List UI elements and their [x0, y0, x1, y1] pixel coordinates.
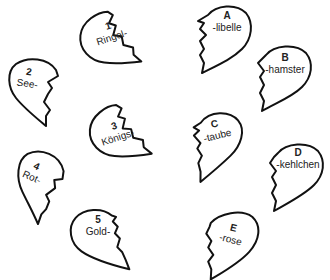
piece-number: 5	[78, 214, 118, 226]
piece-label-B: B -hamster	[262, 52, 308, 76]
piece-label-2: 2 See-	[9, 64, 48, 93]
word-fragment: -libelle	[213, 22, 242, 33]
word-fragment: -hamster	[265, 64, 304, 75]
word-fragment: See-	[16, 77, 38, 91]
piece-letter: A	[206, 10, 248, 22]
piece-label-D: D -kehlchen	[274, 147, 322, 171]
piece-letter: D	[274, 147, 322, 159]
word-fragment: -kehlchen	[276, 159, 319, 170]
word-fragment: Gold-	[86, 226, 110, 237]
piece-label-A: A -libelle	[206, 10, 248, 34]
piece-label-5: 5 Gold-	[78, 214, 118, 238]
piece-letter: B	[262, 52, 308, 64]
